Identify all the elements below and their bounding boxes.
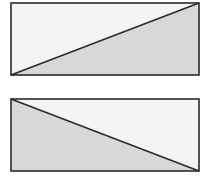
rectangle-diagram-1 — [11, 3, 199, 75]
diagram-canvas — [0, 0, 213, 179]
rectangle-diagram-2 — [11, 99, 199, 171]
